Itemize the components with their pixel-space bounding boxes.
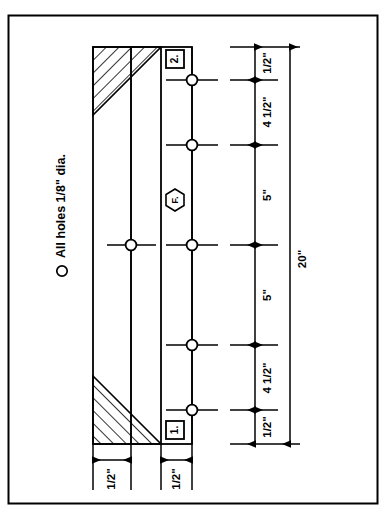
- drawing-sheet: 2. 1. F.: [0, 0, 386, 520]
- dim-label-width-left: 1/2": [105, 468, 117, 489]
- technical-drawing-svg: 2. 1. F.: [0, 0, 386, 520]
- marker-hex: F.: [166, 189, 184, 211]
- note-group: All holes 1/8" dia.: [54, 154, 68, 276]
- dim-label-5-bottom: 5": [261, 289, 273, 301]
- marker-hex-label: F.: [169, 196, 180, 203]
- dim-label-5-top: 5": [261, 189, 273, 201]
- marker-box-bottom-label: 1.: [169, 426, 180, 435]
- marker-box-top-label: 2.: [169, 55, 180, 64]
- dim-label-half-top: 1/2": [261, 52, 273, 73]
- note-label: All holes 1/8" dia.: [54, 154, 68, 258]
- dim-label-4half-top: 4 1/2": [261, 96, 273, 127]
- dim-label-overall: 20": [296, 250, 308, 268]
- dim-label-4half-bottom: 4 1/2": [261, 362, 273, 393]
- dim-label-width-right: 1/2": [170, 468, 182, 489]
- marker-box-bottom: 1.: [166, 421, 184, 439]
- dim-label-half-bottom: 1/2": [261, 416, 273, 437]
- marker-box-top: 2.: [166, 50, 184, 68]
